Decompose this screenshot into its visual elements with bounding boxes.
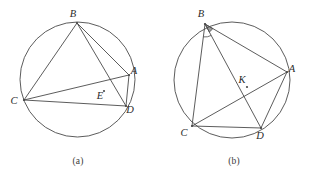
vertex-point-b <box>76 22 78 24</box>
vertex-label-d: D <box>125 104 134 115</box>
figure-a-caption: (a) <box>0 156 156 166</box>
circumcircle <box>20 22 135 137</box>
vertex-label-b: B <box>70 8 77 19</box>
vertex-label-a: A <box>130 65 138 76</box>
figure-b-geometry <box>174 22 290 138</box>
chord-ba <box>205 24 287 72</box>
chord-cd <box>24 100 126 106</box>
vertex-label-b: B <box>198 8 205 19</box>
chord-bc <box>192 24 205 126</box>
figure-panel-a: BADCE (a) <box>0 0 156 183</box>
chord-cd <box>192 126 261 128</box>
vertex-label-a: A <box>288 63 296 74</box>
vertex-label-c: C <box>180 127 188 138</box>
vertex-point-a <box>286 71 288 73</box>
vertex-label-k: K <box>237 74 246 85</box>
chord-bd <box>205 24 261 128</box>
figure-b-caption: (b) <box>156 156 312 166</box>
vertex-point-b <box>204 23 206 25</box>
figure-panel-b: BADCK (b) <box>156 0 312 183</box>
chord-bc <box>24 23 77 100</box>
vertex-point-k <box>246 86 248 88</box>
vertex-point-c <box>23 99 25 101</box>
vertex-point-c <box>191 125 193 127</box>
figure-a-geometry <box>20 22 135 137</box>
vertex-label-c: C <box>10 95 18 106</box>
vertex-point-e <box>103 90 105 92</box>
vertex-label-d: D <box>255 130 264 141</box>
figure-b-vertex-labels: BADCK <box>180 8 295 141</box>
vertex-point-d <box>260 127 262 129</box>
chord-ca <box>24 75 129 100</box>
angle-mark-arc-b-1 <box>203 35 211 37</box>
vertex-point-a <box>128 74 130 76</box>
vertex-label-e: E <box>96 90 104 101</box>
chord-ad <box>126 75 129 106</box>
geometry-figure-plate: BADCE (a) BADCK (b) <box>0 0 312 183</box>
